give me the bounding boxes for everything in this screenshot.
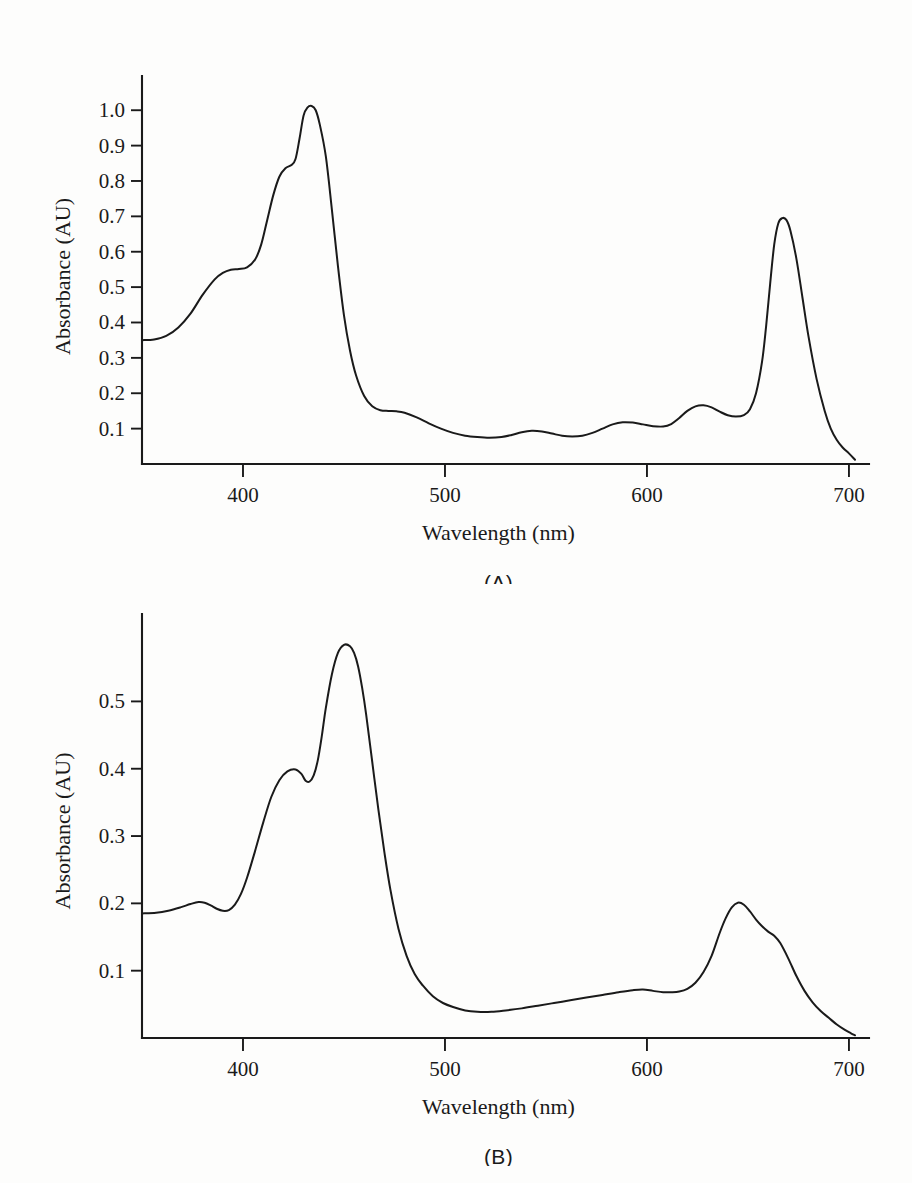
y-tick-label-0.7: 0.7 bbox=[99, 204, 125, 228]
x-tick-label-500: 500 bbox=[429, 1057, 461, 1081]
y-axis-title: Absorbance (AU) bbox=[50, 198, 75, 355]
x-axis-title: Wavelength (nm) bbox=[422, 1094, 575, 1119]
x-tick-label-500: 500 bbox=[429, 483, 461, 507]
y-tick-label-0.6: 0.6 bbox=[99, 240, 125, 264]
x-axis-title: Wavelength (nm) bbox=[422, 520, 575, 545]
y-tick-label-0.4: 0.4 bbox=[99, 310, 126, 334]
y-tick-label-0.3: 0.3 bbox=[99, 824, 125, 848]
y-tick-label-0.5: 0.5 bbox=[99, 275, 125, 299]
panel-caption: (B) bbox=[484, 1145, 513, 1166]
panel-a-plot: 0.10.20.30.40.50.60.70.80.91.04005006007… bbox=[0, 24, 912, 584]
x-tick-label-700: 700 bbox=[833, 1057, 865, 1081]
y-tick-label-0.2: 0.2 bbox=[99, 381, 125, 405]
x-tick-label-600: 600 bbox=[631, 1057, 663, 1081]
y-tick-label-0.2: 0.2 bbox=[99, 891, 125, 915]
y-tick-label-0.1: 0.1 bbox=[99, 417, 125, 441]
panel-b-plot: 0.10.20.30.40.5400500600700Wavelength (n… bbox=[0, 596, 912, 1166]
y-tick-label-0.5: 0.5 bbox=[99, 689, 125, 713]
spectrum-curve bbox=[142, 106, 855, 460]
y-tick-label-0.4: 0.4 bbox=[99, 757, 126, 781]
y-tick-label-0.3: 0.3 bbox=[99, 346, 125, 370]
figure-page: 0.10.20.30.40.50.60.70.80.91.04005006007… bbox=[0, 0, 912, 1183]
y-tick-label-0.1: 0.1 bbox=[99, 959, 125, 983]
x-tick-label-600: 600 bbox=[631, 483, 663, 507]
y-axis-title: Absorbance (AU) bbox=[50, 753, 75, 910]
panel-b: 0.10.20.30.40.5400500600700Wavelength (n… bbox=[0, 596, 912, 1166]
spectrum-curve bbox=[142, 644, 855, 1035]
y-tick-label-0.8: 0.8 bbox=[99, 169, 125, 193]
x-tick-label-400: 400 bbox=[227, 1057, 259, 1081]
x-tick-label-700: 700 bbox=[833, 483, 865, 507]
y-tick-label-0.9: 0.9 bbox=[99, 134, 125, 158]
panel-a: 0.10.20.30.40.50.60.70.80.91.04005006007… bbox=[0, 24, 912, 584]
y-tick-label-1.0: 1.0 bbox=[99, 98, 125, 122]
panel-caption: (A) bbox=[484, 571, 513, 584]
x-tick-label-400: 400 bbox=[227, 483, 259, 507]
